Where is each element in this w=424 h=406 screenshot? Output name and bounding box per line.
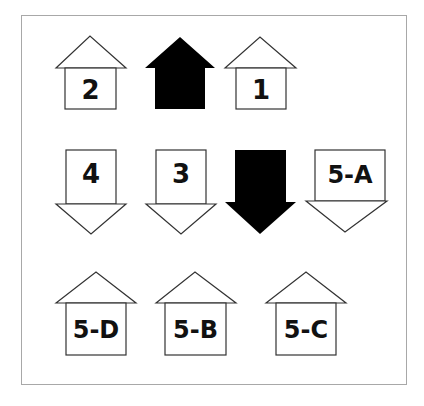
arrow-up-filled bbox=[145, 37, 215, 109]
arrow-up-5b: 5-B bbox=[156, 272, 236, 355]
arrow-label: 4 bbox=[82, 159, 100, 189]
arrow-down-filled bbox=[225, 150, 296, 234]
arrow-up-5c: 5-C bbox=[266, 272, 346, 355]
arrow-label: 5-C bbox=[284, 316, 328, 344]
arrow-up-1: 1 bbox=[225, 37, 296, 109]
arrow-label: 5-D bbox=[73, 316, 120, 344]
arrow-label: 5-A bbox=[327, 161, 373, 189]
arrow-down-5a: 5-A bbox=[306, 150, 387, 232]
arrow-diagram: 2 1 4 3 5-A 5-D 5-B 5-C bbox=[0, 0, 424, 406]
arrow-label: 1 bbox=[252, 75, 270, 105]
arrow-down-3: 3 bbox=[146, 150, 216, 234]
arrow-up-5d: 5-D bbox=[56, 272, 136, 355]
arrow-label: 3 bbox=[172, 159, 190, 189]
arrow-up-2: 2 bbox=[56, 36, 126, 109]
arrow-label: 5-B bbox=[173, 316, 218, 344]
arrow-down-4: 4 bbox=[56, 150, 126, 234]
arrow-label: 2 bbox=[81, 75, 99, 105]
